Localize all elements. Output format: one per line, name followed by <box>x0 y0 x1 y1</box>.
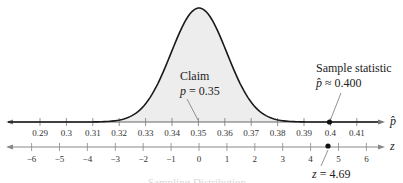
z-tick-label: 2 <box>253 154 258 164</box>
z-tick-label: −1 <box>166 154 176 164</box>
p-hat-tick-label: 0.37 <box>243 128 259 138</box>
z-tick-label: −6 <box>27 154 37 164</box>
p-hat-tick-label: 0.3 <box>61 128 73 138</box>
z-annotation: z = 4.69 <box>311 143 350 181</box>
claim-title: Claim <box>180 69 210 83</box>
sample-statistic-annotation: Sample statistic p̂ ≈ 0.400 <box>315 61 392 125</box>
p-hat-tick-label: 0.33 <box>138 128 154 138</box>
p-hat-tick-label: 0.34 <box>164 128 180 138</box>
z-tick-label: 5 <box>336 154 341 164</box>
z-axis-label: z <box>389 139 395 153</box>
z-tick-label: −2 <box>138 154 148 164</box>
z-point-marker <box>325 143 330 148</box>
sample-title: Sample statistic <box>316 61 392 75</box>
claim-value: p = 0.35 <box>179 84 220 98</box>
z-tick-label: 0 <box>197 154 202 164</box>
chart-caption: Sampling Distribution <box>148 176 247 183</box>
p-hat-tick-label: 0.36 <box>217 128 233 138</box>
z-tick-label: 6 <box>364 154 369 164</box>
z-axis: −6−5−4−3−2−10123456 z <box>6 139 395 164</box>
z-tick-label: 4 <box>308 154 313 164</box>
z-tick-label: −3 <box>111 154 121 164</box>
axis-arrow-right-icon <box>378 120 385 125</box>
sample-point-marker <box>327 119 332 124</box>
p-hat-tick-label: 0.39 <box>296 128 312 138</box>
z-axis-arrow-right-icon <box>378 145 385 150</box>
p-hat-tick-label: 0.38 <box>270 128 286 138</box>
z-value: z = 4.69 <box>311 167 350 181</box>
z-axis-arrow-left-icon <box>6 145 13 150</box>
p-hat-tick-label: 0.4 <box>325 128 337 138</box>
z-tick-label: 3 <box>280 154 285 164</box>
sample-value: p̂ ≈ 0.400 <box>315 76 362 90</box>
z-tick-label: −4 <box>83 154 93 164</box>
sampling-distribution-chart: 0.290.30.310.320.330.340.350.360.370.380… <box>0 0 403 183</box>
p-hat-tick-label: 0.29 <box>32 128 48 138</box>
z-tick-label: 1 <box>225 154 230 164</box>
z-leader-line <box>321 150 328 166</box>
sample-leader-line <box>330 93 341 121</box>
p-hat-tick-label: 0.31 <box>85 128 101 138</box>
p-hat-tick-label: 0.32 <box>111 128 127 138</box>
p-hat-axis-label: p̂ <box>389 114 396 128</box>
p-hat-tick-label: 0.41 <box>349 128 365 138</box>
z-tick-label: −5 <box>55 154 65 164</box>
p-hat-tick-label: 0.35 <box>191 128 207 138</box>
